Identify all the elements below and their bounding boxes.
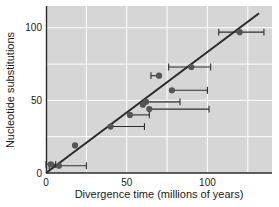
- data-point: [143, 99, 149, 105]
- x-axis-tick-labels: 050100: [43, 177, 216, 188]
- x-tick-label: 100: [199, 177, 216, 188]
- data-point: [48, 161, 54, 167]
- data-point: [146, 106, 152, 112]
- y-tick-label: 0: [36, 168, 42, 179]
- data-point: [107, 123, 113, 129]
- y-tick-label: 50: [31, 95, 43, 106]
- data-point: [169, 87, 175, 93]
- x-tick-label: 0: [43, 177, 49, 188]
- plot-canvas: 050100 050100 Divergence time (millions …: [0, 0, 279, 207]
- data-point: [188, 64, 194, 70]
- data-point: [56, 163, 62, 169]
- data-point: [237, 29, 243, 35]
- x-axis-title: Divergence time (millions of years): [75, 188, 244, 200]
- y-tick-label: 100: [25, 22, 42, 33]
- y-axis-tick-labels: 050100: [25, 22, 42, 178]
- scatter-plot-figure: 050100 050100 Divergence time (millions …: [0, 0, 279, 207]
- y-axis-title: Nucleotide substitutions: [4, 31, 16, 148]
- data-point: [156, 73, 162, 79]
- data-point: [72, 142, 78, 148]
- data-point: [127, 112, 133, 118]
- x-tick-label: 50: [121, 177, 133, 188]
